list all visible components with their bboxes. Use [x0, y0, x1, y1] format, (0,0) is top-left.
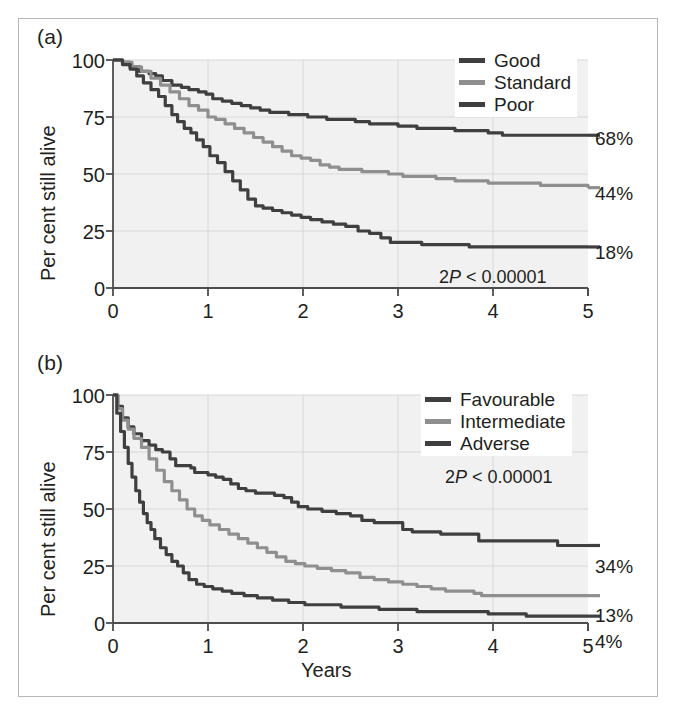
panel-a-xtick-2: 2 — [288, 300, 318, 323]
legend-label-poor: Poor — [494, 95, 534, 114]
panel-a-legend: Good Standard Poor — [455, 47, 577, 117]
panel-b-xtick-2: 2 — [288, 635, 318, 658]
panel-a-pvalue-prefix: 2 — [439, 267, 449, 287]
panel-a-endlabel-standard: 44% — [595, 183, 633, 205]
legend-item-standard[interactable]: Standard — [459, 71, 571, 93]
panel-b-ytick-100: 100 — [57, 385, 105, 408]
panel-a-ytick-100: 100 — [57, 50, 105, 73]
legend-swatch-adverse-icon — [425, 441, 451, 446]
legend-swatch-intermediate-icon — [425, 419, 451, 424]
legend-label-standard: Standard — [494, 73, 571, 92]
legend-swatch-good-icon — [459, 58, 485, 63]
panel-a-y-axis-title: Per cent still alive — [37, 125, 60, 281]
panel-b-ytick-25: 25 — [57, 556, 105, 579]
panel-b: (b) Per cent still alive 100 75 50 25 0 … — [19, 349, 659, 698]
legend-swatch-poor-icon — [459, 102, 485, 107]
panel-b-x-axis-title: Years — [301, 659, 351, 682]
panel-b-pvalue: 2P < 0.00001 — [445, 467, 553, 488]
panel-b-ytick-0: 0 — [57, 613, 105, 636]
legend-item-adverse[interactable]: Adverse — [425, 432, 566, 454]
panel-b-xtick-0: 0 — [98, 635, 128, 658]
legend-item-favourable[interactable]: Favourable — [425, 388, 566, 410]
panel-a-pvalue: 2P < 0.00001 — [439, 267, 547, 288]
panel-b-xtick-1: 1 — [193, 635, 223, 658]
legend-swatch-standard-icon — [459, 80, 485, 85]
panel-a-label: (a) — [37, 25, 63, 49]
panel-a-xtick-3: 3 — [383, 300, 413, 323]
legend-item-poor[interactable]: Poor — [459, 93, 571, 115]
panel-b-xtick-4: 4 — [478, 635, 508, 658]
panel-a-ytick-50: 50 — [57, 164, 105, 187]
panel-b-endlabel-intermediate: 13% — [595, 605, 633, 627]
legend-swatch-favourable-icon — [425, 397, 451, 402]
panel-b-pvalue-italic: P — [455, 467, 467, 487]
panel-b-ytick-75: 75 — [57, 442, 105, 465]
panel-a-endlabel-good: 68% — [595, 128, 633, 150]
panel-a-xtick-0: 0 — [98, 300, 128, 323]
legend-label-intermediate: Intermediate — [460, 412, 566, 431]
panel-a-pvalue-suffix: < 0.00001 — [461, 267, 547, 287]
panel-b-pvalue-suffix: < 0.00001 — [467, 467, 553, 487]
legend-label-adverse: Adverse — [460, 434, 530, 453]
figure-border: (a) Per cent still alive 100 75 50 25 0 … — [18, 18, 658, 697]
panel-b-endlabel-adverse: 4% — [595, 631, 622, 653]
panel-b-label: (b) — [37, 351, 63, 375]
panel-b-xtick-3: 3 — [383, 635, 413, 658]
panel-b-legend: Favourable Intermediate Adverse — [421, 386, 572, 456]
legend-label-good: Good — [494, 51, 540, 70]
panel-b-pvalue-prefix: 2 — [445, 467, 455, 487]
panel-b-endlabel-favourable: 34% — [595, 556, 633, 578]
legend-item-intermediate[interactable]: Intermediate — [425, 410, 566, 432]
panel-a-endlabel-poor: 18% — [595, 242, 633, 264]
panel-b-y-axis-title: Per cent still alive — [37, 461, 60, 617]
legend-label-favourable: Favourable — [460, 390, 555, 409]
panel-a-xtick-4: 4 — [478, 300, 508, 323]
panel-a-ytick-25: 25 — [57, 221, 105, 244]
panel-b-ytick-50: 50 — [57, 499, 105, 522]
legend-item-good[interactable]: Good — [459, 49, 571, 71]
survival-curves-figure: (a) Per cent still alive 100 75 50 25 0 … — [0, 0, 677, 719]
panel-a-ytick-0: 0 — [57, 278, 105, 301]
panel-a: (a) Per cent still alive 100 75 50 25 0 … — [19, 19, 659, 359]
panel-a-xtick-5: 5 — [573, 300, 603, 323]
panel-a-pvalue-italic: P — [449, 267, 461, 287]
panel-a-xtick-1: 1 — [193, 300, 223, 323]
panel-a-ytick-75: 75 — [57, 107, 105, 130]
